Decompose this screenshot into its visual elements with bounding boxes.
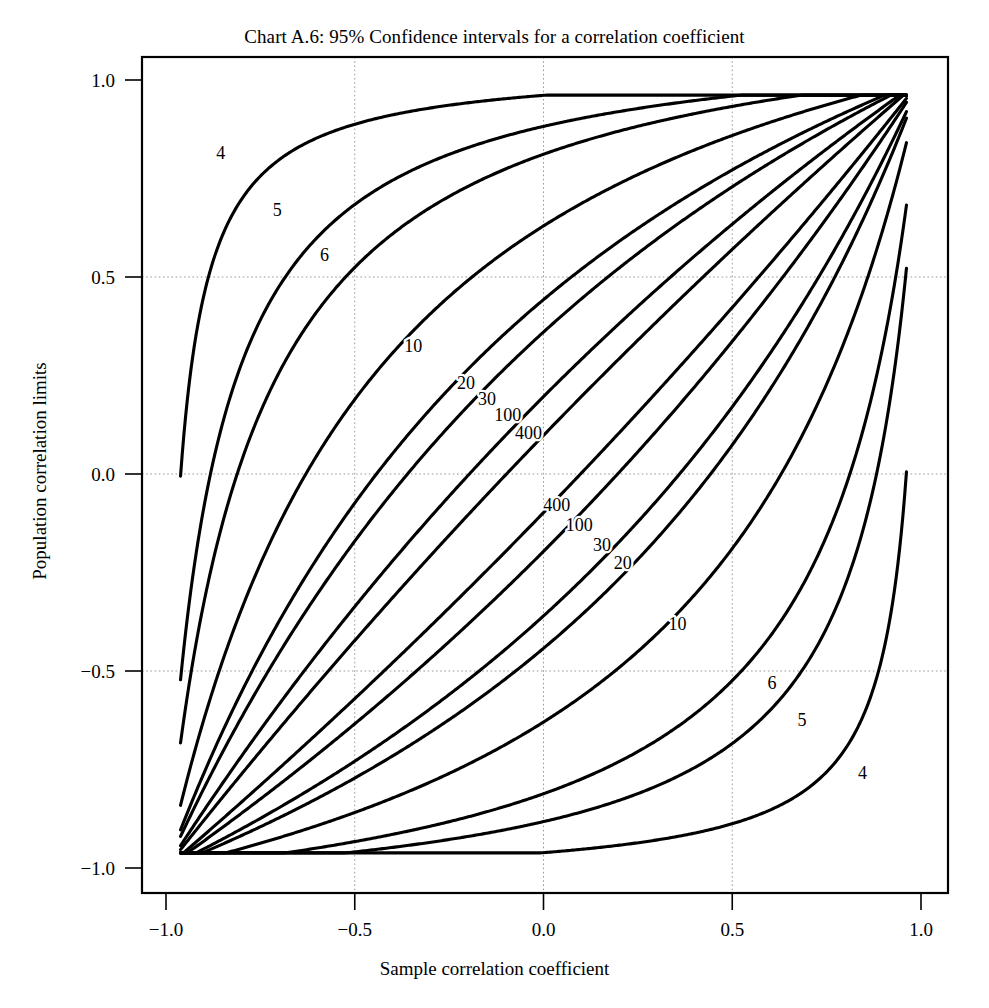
curve-label: 100 bbox=[566, 515, 593, 535]
curve-label: 4 bbox=[216, 143, 225, 163]
x-tick-label: 0.0 bbox=[532, 919, 556, 940]
x-tick-label: −1.0 bbox=[149, 919, 183, 940]
x-axis-label: Sample correlation coefficient bbox=[0, 958, 989, 980]
curve-label: 5 bbox=[273, 200, 282, 220]
y-tick-label: 0.0 bbox=[91, 464, 115, 485]
gridlines bbox=[142, 57, 948, 893]
curve-label: 20 bbox=[457, 373, 475, 393]
x-tick-label: −0.5 bbox=[338, 919, 372, 940]
curve-label: 6 bbox=[320, 245, 329, 265]
curve-label: 10 bbox=[404, 336, 422, 356]
plot-area: −1.0−0.50.00.51.01.00.50.0−0.5−1.0 44556… bbox=[0, 0, 989, 1008]
y-tick-label: −1.0 bbox=[81, 858, 115, 879]
curve-label: 30 bbox=[593, 535, 611, 555]
curve-label: 400 bbox=[543, 495, 570, 515]
confidence-curve bbox=[181, 95, 907, 805]
plot-frame bbox=[142, 57, 948, 893]
curve-label: 10 bbox=[669, 614, 687, 634]
curve-label: 20 bbox=[614, 553, 632, 573]
x-tick-label: 0.5 bbox=[720, 919, 744, 940]
curve-label: 5 bbox=[798, 710, 807, 730]
x-tick-label: 1.0 bbox=[909, 919, 933, 940]
y-axis-label: Population correlation limits bbox=[29, 291, 51, 651]
y-tick-label: −0.5 bbox=[81, 661, 115, 682]
confidence-curve bbox=[181, 95, 907, 845]
chart-figure: Chart A.6: 95% Confidence intervals for … bbox=[0, 0, 989, 1008]
y-tick-label: 0.5 bbox=[91, 267, 115, 288]
y-tick-label: 1.0 bbox=[91, 70, 115, 91]
confidence-curve bbox=[181, 98, 907, 852]
curve-label: 4 bbox=[858, 763, 867, 783]
chart-title: Chart A.6: 95% Confidence intervals for … bbox=[0, 26, 989, 48]
curve-label: 6 bbox=[767, 673, 776, 693]
curve-label: 400 bbox=[515, 423, 542, 443]
axis-tick-labels: −1.0−0.50.00.51.01.00.50.0−0.5−1.0 bbox=[81, 70, 933, 940]
axis-ticks bbox=[125, 80, 921, 910]
